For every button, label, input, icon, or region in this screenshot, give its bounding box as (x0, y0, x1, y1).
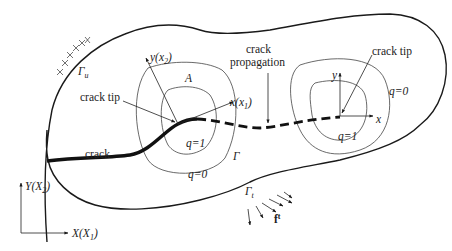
traction-arrows (248, 192, 292, 225)
traction-label: ft (274, 212, 281, 225)
area-A-label: A (184, 72, 193, 84)
right-y-label: y (331, 69, 338, 82)
global-Y-label: Y(X2) (25, 180, 50, 195)
q0-left-label: q=0 (188, 168, 208, 181)
local-y-label: y(x2) (149, 51, 172, 66)
right-x-label: x (375, 113, 382, 125)
crack-tip-label-left: crack tip (80, 91, 120, 104)
crack-tip-label-right: crack tip (372, 45, 412, 58)
crack-diagram: Γu crack tip y(x2) A x(x1) crack propaga… (0, 0, 452, 251)
q0-right-label: q=0 (389, 85, 409, 98)
gamma-t-label: Γt (244, 185, 255, 200)
gamma-label: Γ (232, 150, 240, 162)
local-y-axis (146, 58, 178, 124)
q1-left-label: q=1 (186, 137, 205, 150)
crack-propagation-path (197, 117, 340, 128)
crack-path (47, 119, 197, 161)
crack-tip-leader-right (342, 55, 372, 113)
crack-tip-leader-left (123, 101, 175, 122)
global-X-label: X(X1) (71, 227, 98, 242)
local-x-label: x(x1) (229, 96, 252, 111)
crack-propagation-label-1: crack (246, 43, 271, 55)
gamma-u-label: Γu (77, 65, 89, 80)
q1-right-label: q=1 (338, 130, 357, 143)
crack-label: crack (85, 148, 110, 160)
crack-propagation-label-2: propagation (230, 56, 285, 69)
